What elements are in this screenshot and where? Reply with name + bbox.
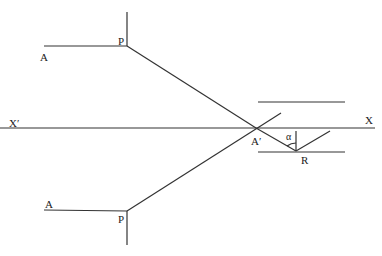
label-alpha: α [286,132,291,142]
upper-p-to-aprime [127,46,256,128]
label-a-prime: A′ [251,136,261,147]
label-x: X [365,115,373,126]
label-p-lower: P [118,214,124,225]
lower-ap-line [44,210,127,211]
label-a-upper: A [40,52,48,63]
alpha-arc [287,143,296,146]
label-r: R [301,155,308,166]
geometry-diagram [0,0,382,256]
label-x-prime: X′ [9,118,19,129]
r-reflect-line [296,131,330,151]
label-p-upper: P [118,36,124,47]
label-a-lower: A [45,199,53,210]
